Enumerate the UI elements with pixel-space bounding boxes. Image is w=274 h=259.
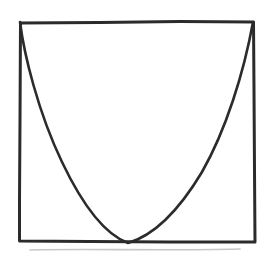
- sketch-background: [0, 0, 274, 259]
- parabola-sketch-canvas: Parabola inscribed in a rectangular fram…: [0, 0, 274, 259]
- pencil-smudge: [30, 249, 240, 250]
- sketch-figure: Parabola inscribed in a rectangular fram…: [0, 0, 274, 259]
